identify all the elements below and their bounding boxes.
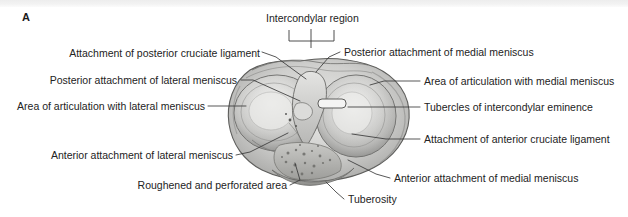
label-area-articulation-lateral-meniscus: Area of articulation with lateral menisc… [0,100,205,112]
leader-tuberosity [326,182,344,199]
anatomy-figure-panel: A [0,0,628,217]
lateral-intercondylar-tubercle [293,103,312,120]
label-tubercles-intercondylar-eminence: Tubercles of intercondylar eminence [424,101,593,113]
label-posterior-cruciate-ligament-attachment: Attachment of posterior cruciate ligamen… [0,47,260,59]
intercondylar-tubercle-marker [318,99,346,108]
label-anterior-attachment-medial-meniscus: Anterior attachment of medial meniscus [394,172,578,184]
tibial-plateau-illustration [228,59,409,186]
lateral-condyle-highlight [249,92,293,130]
bone-pit [285,113,287,115]
label-posterior-attachment-lateral-meniscus: Posterior attachment of lateral meniscus [0,74,237,86]
label-attachment-anterior-cruciate-ligament: Attachment of anterior cruciate ligament [424,133,610,145]
medial-condyle-highlight [332,92,372,134]
label-anterior-attachment-lateral-meniscus: Anterior attachment of lateral meniscus [0,149,233,161]
bone-pit [295,125,297,127]
label-tuberosity: Tuberosity [348,193,397,205]
label-area-articulation-medial-meniscus: Area of articulation with medial meniscu… [424,75,614,87]
label-posterior-attachment-medial-meniscus: Posterior attachment of medial meniscus [344,46,534,58]
label-roughened-perforated-area: Roughened and perforated area [0,179,287,191]
label-intercondylar-region: Intercondylar region [266,12,359,24]
bone-pit [289,119,292,122]
intercondylar-region-bracket [289,29,334,48]
